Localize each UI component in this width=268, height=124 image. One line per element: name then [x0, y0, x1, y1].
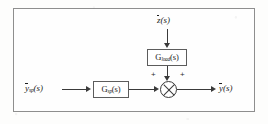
block-diagram-figure: z(s) Gload(s) ysp(s) Gsp(s) + + y(s): [0, 0, 268, 124]
setpoint-input-label: ysp(s): [25, 83, 43, 93]
disturbance-argument: (s): [161, 15, 171, 25]
sum-sign-right: +: [180, 71, 185, 79]
setpoint-block-label: Gsp(s): [101, 85, 120, 94]
setpoint-input-line: [62, 89, 87, 90]
setpoint-to-sum-line: [129, 89, 155, 90]
setpoint-block[interactable]: Gsp(s): [93, 81, 129, 98]
setpoint-to-sum-arrowhead: [154, 86, 159, 92]
output-argument: (s): [223, 83, 233, 93]
load-block-argument: (s): [170, 52, 179, 62]
disturbance-connector-line: [167, 29, 168, 44]
summing-junction[interactable]: [160, 81, 177, 98]
disturbance-arrowhead: [164, 43, 170, 48]
load-block-label: Gload(s): [155, 53, 178, 62]
setpoint-block-argument: (s): [112, 84, 121, 94]
setpoint-input-arrowhead: [86, 86, 91, 92]
sum-sign-left: +: [151, 71, 156, 79]
output-label: y(s): [219, 83, 233, 93]
load-block[interactable]: Gload(s): [147, 49, 187, 66]
output-arrowhead: [211, 86, 216, 92]
load-block-subscript: load: [161, 56, 170, 62]
figure-frame: [13, 8, 255, 112]
output-variable: y: [219, 83, 223, 93]
setpoint-argument: (s): [34, 83, 44, 93]
disturbance-variable: z: [157, 15, 161, 25]
output-line: [177, 89, 212, 90]
disturbance-input-label: z(s): [157, 15, 170, 25]
setpoint-variable: y: [25, 83, 29, 93]
